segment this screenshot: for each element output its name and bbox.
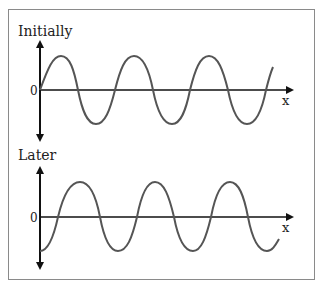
panel-initially: Initially 0 x: [18, 23, 292, 140]
wave-diagram: Initially 0 x Later 0 x: [0, 0, 326, 289]
origin-label: 0: [30, 84, 38, 98]
origin-label: 0: [30, 211, 38, 225]
panel-title: Later: [18, 147, 57, 163]
panel-title: Initially: [18, 23, 72, 39]
x-axis-label: x: [282, 93, 290, 108]
x-axis-label: x: [282, 220, 290, 235]
panel-later: Later 0 x: [18, 147, 292, 268]
